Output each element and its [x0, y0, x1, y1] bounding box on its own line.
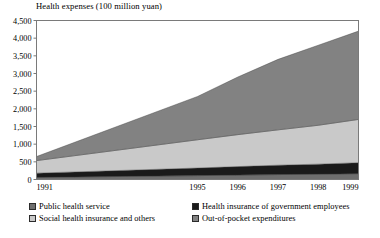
y-tick-label: 1,500 [13, 123, 31, 132]
y-tick-label: 1,000 [13, 140, 31, 149]
y-tick-label: 3,500 [13, 52, 31, 61]
stacked-area-bands [37, 31, 359, 179]
x-tick-label: 1997 [270, 183, 286, 192]
y-tick-label: 2,000 [13, 105, 31, 114]
health-expenses-area-chart: Health expenses (100 million yuan) 05001… [0, 0, 380, 238]
legend-swatch-public-health-icon [29, 203, 36, 210]
chart-legend: Public health service Health insurance o… [29, 200, 377, 224]
legend-item-public-health-service: Public health service [29, 201, 192, 212]
y-tick-label: 3,000 [13, 70, 31, 79]
legend-label-public-health: Public health service [39, 201, 110, 212]
x-tick-label: 1991 [37, 183, 53, 192]
y-tick-label: 4,000 [13, 34, 31, 43]
y-tick-label: 2,500 [13, 87, 31, 96]
legend-label-social-insurance: Social health insurance and others [39, 213, 155, 224]
legend-swatch-out-of-pocket-icon [192, 215, 199, 222]
y-axis-tick-labels: 05001,0001,5002,0002,5003,0003,5004,0004… [13, 17, 31, 185]
legend-label-government-employees: Health insurance of government employees [202, 201, 350, 212]
legend-item-out-of-pocket: Out-of-pocket expenditures [192, 213, 377, 224]
x-tick-label: 1996 [230, 183, 246, 192]
legend-swatch-government-employees-icon [192, 203, 199, 210]
x-axis-tick-labels: 199119951996199719981999 [37, 183, 359, 192]
legend-swatch-social-insurance-icon [29, 215, 36, 222]
legend-label-out-of-pocket: Out-of-pocket expenditures [202, 213, 296, 224]
legend-item-government-employees: Health insurance of government employees [192, 201, 377, 212]
legend-item-social-insurance: Social health insurance and others [29, 213, 192, 224]
y-tick-label: 4,500 [13, 17, 31, 26]
x-tick-label: 1995 [189, 183, 205, 192]
y-tick-label: 500 [19, 158, 31, 167]
x-tick-label: 1999 [342, 183, 358, 192]
y-tick-label: 0 [27, 176, 31, 185]
x-tick-label: 1998 [310, 183, 326, 192]
